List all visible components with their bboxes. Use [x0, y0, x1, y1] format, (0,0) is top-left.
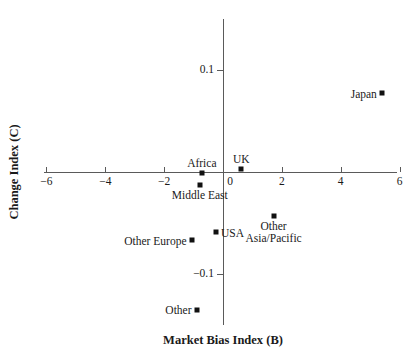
- data-point: [379, 91, 384, 96]
- x-tick-label: −6: [40, 176, 52, 188]
- data-point-label: UK: [233, 153, 250, 165]
- x-tick-mark: [282, 167, 283, 172]
- scatter-chart: −6−4−20246 0.30.20.1−0.1−0.2−0.3 JapanUK…: [0, 0, 419, 364]
- x-tick-mark: [341, 167, 342, 172]
- data-point: [239, 166, 244, 171]
- data-point-label: OtherAsia/Pacific: [245, 220, 301, 244]
- x-tick-label: 4: [338, 176, 344, 188]
- x-tick-mark: [164, 167, 165, 172]
- x-tick-label: 2: [279, 176, 285, 188]
- data-point: [199, 171, 204, 176]
- data-point-label: Other Europe: [124, 235, 186, 247]
- y-axis-line: [223, 19, 224, 325]
- x-tick-label: −4: [99, 176, 111, 188]
- data-point: [271, 213, 276, 218]
- data-point: [197, 183, 202, 188]
- data-point: [213, 230, 218, 235]
- y-tick-mark: [217, 70, 223, 71]
- x-tick-mark: [105, 167, 106, 172]
- x-tick-mark: [46, 167, 47, 172]
- y-tick-label: 0.1: [200, 64, 214, 76]
- data-point-label: Middle East: [172, 189, 228, 201]
- x-axis-line: [44, 172, 397, 173]
- plot-area: −6−4−20246 0.30.20.1−0.1−0.2−0.3 JapanUK…: [0, 0, 419, 364]
- y-axis-title: Change Index (C): [7, 124, 22, 219]
- x-tick-label: 6: [397, 176, 403, 188]
- data-point-label: Africa: [187, 157, 216, 169]
- x-tick-label: 0: [227, 176, 233, 188]
- data-point-label: Japan: [351, 88, 377, 100]
- y-tick-label: −0.1: [193, 268, 214, 280]
- y-tick-mark: [217, 274, 223, 275]
- x-tick-mark: [400, 167, 401, 172]
- data-point: [194, 307, 199, 312]
- data-point-label: USA: [221, 227, 244, 239]
- data-point-label: Other: [165, 304, 191, 316]
- x-axis-title: Market Bias Index (B): [163, 333, 283, 348]
- x-tick-label: −2: [158, 176, 170, 188]
- data-point: [189, 238, 194, 243]
